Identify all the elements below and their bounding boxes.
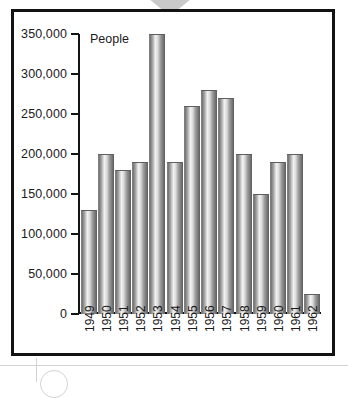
bar-fill <box>149 34 165 314</box>
x-axis-tick-label: 1954 <box>167 316 181 332</box>
bar-series <box>80 34 321 314</box>
y-axis-tick-label: 350,000 <box>21 27 67 41</box>
x-axis-tick-label: 1958 <box>236 316 250 332</box>
bar <box>81 34 97 314</box>
x-axis-tick-label: 1959 <box>253 316 267 332</box>
bar-fill <box>253 194 269 314</box>
bar-fill <box>81 210 97 314</box>
bar-fill <box>287 154 303 314</box>
bar <box>149 34 165 314</box>
bar-fill <box>98 154 114 314</box>
bar-fill <box>167 162 183 314</box>
y-axis-tick: 50,000 <box>71 273 79 275</box>
plot-area: People 350,000300,000250,000200,000150,0… <box>14 12 332 353</box>
bar-fill <box>218 98 234 314</box>
y-axis-tick: 0 <box>71 313 79 315</box>
bar-fill <box>115 170 131 314</box>
y-axis-tick-label: 200,000 <box>21 147 67 161</box>
y-axis-tick-label: 0 <box>60 307 67 321</box>
page-curve-artifact <box>40 370 68 398</box>
bar <box>270 34 286 314</box>
x-axis-tick-label: 1960 <box>270 316 284 332</box>
x-axis-tick-label: 1953 <box>149 316 163 332</box>
x-axis-tick-label: 1962 <box>304 316 318 332</box>
bar <box>236 34 252 314</box>
x-axis-tick-label: 1950 <box>98 316 112 332</box>
bar <box>304 34 320 314</box>
page-tick-mark <box>36 358 37 382</box>
bar <box>287 34 303 314</box>
x-axis-labels: 1949195019511952195319541955195619571958… <box>80 316 321 362</box>
bar <box>115 34 131 314</box>
y-axis-tick: 250,000 <box>71 113 79 115</box>
x-axis-tick-label: 1952 <box>132 316 146 332</box>
bar <box>167 34 183 314</box>
x-axis-tick-label: 1955 <box>184 316 198 332</box>
x-axis-tick-label: 1951 <box>115 316 129 332</box>
y-axis-tick-label: 100,000 <box>21 227 67 241</box>
bar-fill <box>184 106 200 314</box>
x-axis-tick-label: 1949 <box>81 316 95 332</box>
y-axis-tick: 300,000 <box>71 73 79 75</box>
bar <box>253 34 269 314</box>
x-axis-tick-label: 1961 <box>287 316 301 332</box>
x-axis-tick-label: 1956 <box>201 316 215 332</box>
page-rule-line <box>0 365 348 366</box>
y-axis-tick: 350,000 <box>71 33 79 35</box>
y-axis-tick-label: 50,000 <box>28 267 67 281</box>
y-axis-tick-label: 250,000 <box>21 107 67 121</box>
y-axis-tick: 150,000 <box>71 193 79 195</box>
y-axis-tick-label: 150,000 <box>21 187 67 201</box>
chart-frame: People 350,000300,000250,000200,000150,0… <box>11 9 335 356</box>
y-axis-tick-label: 300,000 <box>21 67 67 81</box>
y-axis-tick: 200,000 <box>71 153 79 155</box>
y-axis-tick: 100,000 <box>71 233 79 235</box>
bar <box>201 34 217 314</box>
bar-fill <box>201 90 217 314</box>
bar-fill <box>132 162 148 314</box>
bar <box>218 34 234 314</box>
bar-fill <box>270 162 286 314</box>
bar <box>98 34 114 314</box>
bar-fill <box>236 154 252 314</box>
bar <box>184 34 200 314</box>
x-axis-tick-label: 1957 <box>218 316 232 332</box>
bar <box>132 34 148 314</box>
